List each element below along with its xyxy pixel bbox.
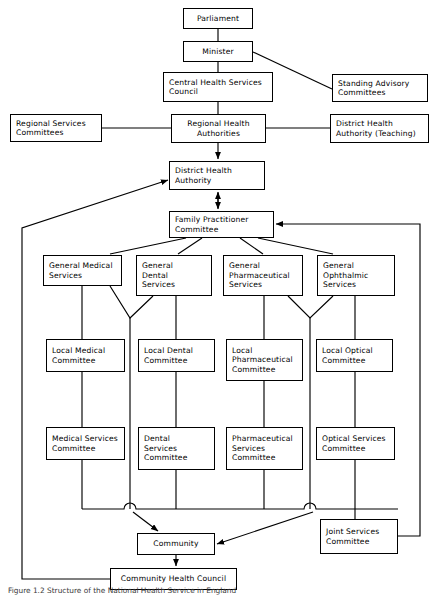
node-label-line: Regional Health — [187, 119, 249, 128]
node-community: Community — [137, 533, 215, 555]
node-label-line: Local Optical — [322, 346, 373, 355]
node-medical-services-committee: Medical ServicesCommittee — [46, 427, 125, 460]
node-label-line: Parliament — [197, 14, 239, 23]
node-label-line: Committee — [144, 453, 188, 462]
node-layer: ParliamentMinisterCentral Health Service… — [0, 0, 436, 597]
node-label-line: Council — [169, 87, 198, 96]
node-local-dental-committee: Local DentalCommittee — [138, 339, 215, 372]
node-label-line: Joint Services — [326, 527, 379, 536]
node-local-medical-committee: Local MedicalCommittee — [46, 339, 125, 372]
node-label-line: Services — [323, 280, 356, 289]
node-label-line: Committee — [322, 444, 366, 453]
node-label-line: Standing Advisory — [338, 79, 410, 88]
node-label-line: General Medical — [49, 261, 113, 270]
node-label-line: Committees — [16, 128, 64, 137]
node-local-pharmaceutical-committee: LocalPharmaceuticalCommittee — [226, 339, 303, 381]
node-dental-services-committee: DentalServicesCommittee — [138, 427, 215, 470]
node-label-line: Services — [142, 280, 175, 289]
node-regional-services-committees: Regional ServicesCommittees — [10, 114, 102, 142]
node-general-medical-services: General MedicalServices — [43, 255, 122, 286]
node-label-line: Central Health Services — [169, 78, 262, 87]
node-label-line: Pharmaceutical — [232, 355, 293, 364]
node-optical-services-committee: Optical ServicesCommittee — [316, 427, 395, 460]
figure-caption: Figure 1.2 Structure of the National Hea… — [8, 586, 428, 596]
node-family-practitioner-committee: Family PractitionerCommittee — [169, 211, 274, 238]
node-parliament: Parliament — [183, 8, 253, 29]
node-label-line: Pharmaceutical — [232, 434, 293, 443]
node-label-line: Services — [144, 444, 177, 453]
node-label-line: Minister — [202, 47, 234, 56]
node-label-line: Authorities — [197, 129, 240, 138]
node-label-line: District Health — [336, 119, 393, 128]
node-label-line: Local — [232, 346, 252, 355]
node-label-line: Community Health Council — [121, 574, 226, 583]
node-district-health-authority-teaching: District HealthAuthority (Teaching) — [330, 114, 429, 143]
node-label-line: Local Dental — [144, 346, 193, 355]
node-label-line: Ophthalmic — [323, 271, 368, 280]
node-joint-services-committee: Joint ServicesCommittee — [320, 519, 398, 554]
node-label-line: Dental — [144, 434, 170, 443]
node-general-ophthalmic-services: GeneralOphthalmicServices — [317, 255, 395, 296]
node-central-health-services-council: Central Health ServicesCouncil — [163, 72, 273, 102]
node-label-line: Optical Services — [322, 434, 386, 443]
node-label-line: Committee — [175, 225, 219, 234]
node-label-line: Medical Services — [52, 434, 118, 443]
node-label-line: Services — [232, 444, 265, 453]
node-label-line: Committee — [232, 365, 276, 374]
figure-canvas: ParliamentMinisterCentral Health Service… — [0, 0, 436, 597]
node-label-line: Committee — [322, 356, 366, 365]
node-label-line: Committee — [326, 537, 370, 546]
node-label-line: Dental — [142, 271, 168, 280]
node-pharmaceutical-services-committee: PharmaceuticalServicesCommittee — [226, 427, 303, 470]
node-label-line: Services — [229, 280, 262, 289]
node-label-line: Pharmaceutical — [229, 271, 290, 280]
node-label-line: Committee — [52, 356, 96, 365]
node-general-pharmaceutical-services: GeneralPharmaceuticalServices — [223, 255, 303, 296]
node-label-line: District Health — [175, 166, 232, 175]
node-label-line: Services — [49, 271, 82, 280]
node-label-line: Authority — [175, 176, 212, 185]
node-label-line: Family Practitioner — [175, 215, 249, 224]
node-label-line: General — [229, 261, 260, 270]
node-label-line: Committees — [338, 88, 386, 97]
node-regional-health-authorities: Regional HealthAuthorities — [171, 114, 266, 143]
node-general-dental-services: GeneralDentalServices — [136, 255, 212, 296]
node-label-line: Committee — [52, 444, 96, 453]
node-label-line: Committee — [232, 453, 276, 462]
node-district-health-authority: District HealthAuthority — [169, 161, 265, 190]
node-standing-advisory-committees: Standing AdvisoryCommittees — [332, 74, 428, 102]
node-local-optical-committee: Local OpticalCommittee — [316, 339, 393, 372]
node-minister: Minister — [183, 41, 253, 62]
node-label-line: Regional Services — [16, 119, 86, 128]
node-label-line: General — [142, 261, 173, 270]
node-label-line: Authority (Teaching) — [336, 129, 416, 138]
node-label-line: General — [323, 261, 354, 270]
node-label-line: Local Medical — [52, 346, 105, 355]
node-label-line: Committee — [144, 356, 188, 365]
node-label-line: Community — [153, 539, 198, 548]
